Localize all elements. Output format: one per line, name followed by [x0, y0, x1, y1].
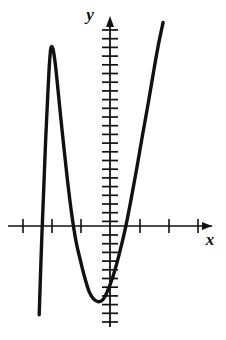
figure-page: y x — [0, 0, 226, 340]
x-axis-arrowhead — [202, 222, 212, 230]
x-axis-label: x — [205, 230, 215, 249]
y-axis-arrowhead — [106, 16, 114, 27]
y-axis-label: y — [84, 5, 94, 24]
graph-figure: y x — [0, 0, 226, 340]
function-curve — [39, 22, 163, 314]
